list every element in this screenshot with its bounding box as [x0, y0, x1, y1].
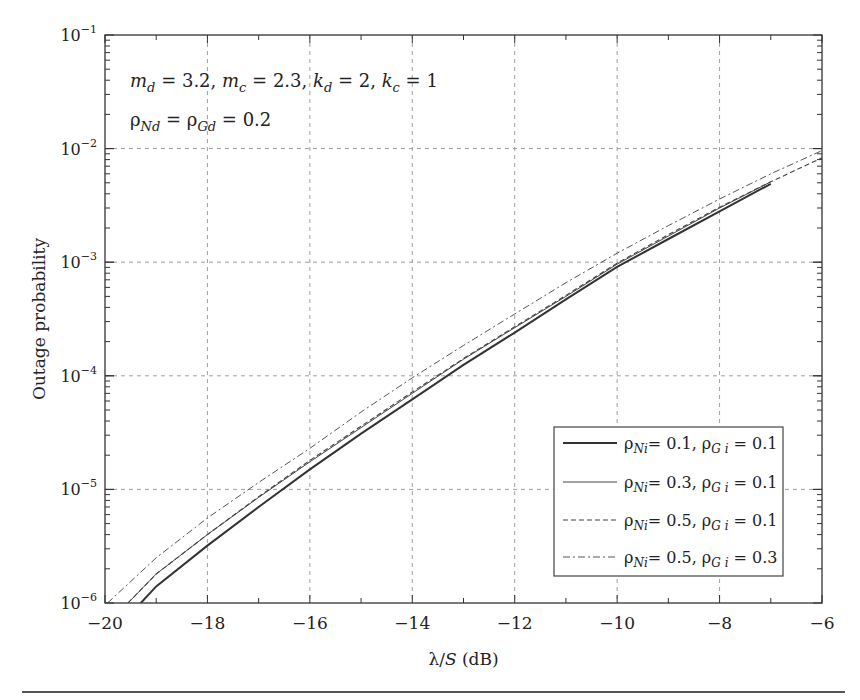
x-tick-label: −20: [87, 613, 123, 633]
x-tick-label: −10: [599, 613, 635, 633]
x-tick-label: −6: [809, 613, 834, 633]
x-tick-labels: −20−18−16−14−12−10−8−6: [87, 613, 834, 633]
legend-label: ρNi= 0.3, ρG i = 0.1: [624, 473, 778, 495]
annotation-text: md = 3.2, mc = 2.3, kd = 2, kc = 1: [130, 70, 438, 95]
legend-label: ρNi= 0.5, ρG i = 0.1: [624, 511, 778, 533]
x-tick-label: −8: [707, 613, 732, 633]
footer-rule: [22, 691, 845, 693]
y-tick-label: 10−4: [60, 364, 97, 386]
x-axis-label: λ/S (dB): [428, 649, 498, 669]
legend-label: ρNi= 0.1, ρG i = 0.1: [624, 434, 778, 456]
x-tick-label: −18: [189, 613, 225, 633]
parameter-annotations: md = 3.2, mc = 2.3, kd = 2, kc = 1ρNd = …: [130, 70, 438, 134]
y-tick-label: 10−6: [60, 591, 97, 613]
annotation-text: ρNd = ρGd = 0.2: [130, 109, 271, 134]
x-tick-label: −12: [497, 613, 533, 633]
outage-probability-chart: −20−18−16−14−12−10−8−6 10−610−510−410−31…: [0, 0, 860, 700]
y-axis-label: Outage probability: [29, 238, 49, 400]
y-tick-labels: 10−610−510−410−310−210−1: [60, 23, 97, 613]
y-tick-label: 10−3: [60, 250, 97, 272]
legend-label: ρNi= 0.5, ρG i = 0.3: [624, 548, 778, 570]
y-tick-label: 10−5: [60, 477, 97, 499]
y-tick-label: 10−2: [60, 137, 97, 159]
y-tick-label: 10−1: [60, 23, 97, 45]
legend: ρNi= 0.1, ρG i = 0.1ρNi= 0.3, ρG i = 0.1…: [554, 427, 783, 576]
x-tick-label: −16: [292, 613, 328, 633]
x-tick-label: −14: [394, 613, 430, 633]
